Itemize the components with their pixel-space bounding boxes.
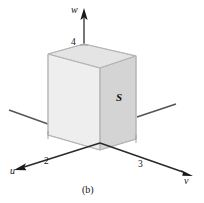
figure-container: w u v 4 2 3 S (b) [0, 0, 204, 203]
u-axis-line-back [9, 110, 48, 124]
u-axis-line-front [24, 143, 100, 167]
figure-caption: (b) [82, 185, 94, 195]
u-axis-label: u [10, 166, 15, 176]
box-right-face [100, 56, 136, 150]
box-left-face [48, 54, 100, 150]
solid-region-diagram [0, 0, 204, 203]
solid-region-label: S [116, 92, 122, 103]
w-axis-label: w [71, 5, 78, 15]
u-axis-tick-label: 2 [44, 157, 49, 167]
v-axis-tick-label: 3 [138, 160, 143, 170]
v-axis-label: v [184, 176, 188, 186]
w-axis-tick-label: 4 [71, 38, 76, 48]
v-axis-line-back [137, 104, 176, 117]
